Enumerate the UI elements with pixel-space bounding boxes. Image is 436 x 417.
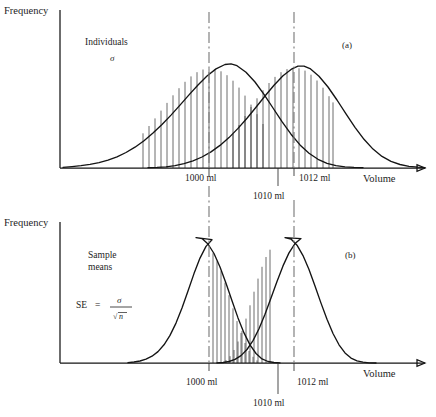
panel-b: Frequency Volume Sample means (b) 1000 m…: [4, 206, 425, 408]
panel-a-y-axis-label: Frequency: [4, 5, 49, 16]
panel-b-x-axis-label: Volume: [363, 368, 396, 379]
standard-error-formula: SE = σ √ n: [76, 295, 132, 321]
panel-a-x-axis-label: Volume: [363, 173, 396, 184]
formula-numerator-sigma: σ: [117, 295, 122, 305]
panel-b-curve-1000ml: [128, 238, 280, 363]
panel-a-curve-1012ml: [148, 66, 425, 168]
panel-b-tick-label-1000ml: 1000 ml: [186, 377, 218, 387]
formula-equals: =: [95, 300, 100, 310]
panel-b-offset-label-1010ml: 1010 ml: [253, 398, 285, 408]
panel-a-tag: (a): [342, 40, 352, 50]
panel-b-hatch-right-curve: [226, 250, 270, 363]
panel-a-tick-label-1012ml: 1012 ml: [299, 173, 331, 183]
formula-denominator-n: n: [119, 312, 123, 321]
panel-b-tick-label-1012ml: 1012 ml: [297, 377, 329, 387]
panel-b-annotation-title-line1: Sample: [88, 250, 117, 260]
panel-a-tick-label-1000ml: 1000 ml: [185, 173, 217, 183]
panel-b-y-axis-label: Frequency: [4, 217, 49, 228]
panel-a-annotation-title: Individuals: [85, 37, 128, 47]
panel-a-offset-label-1010ml: 1010 ml: [253, 191, 285, 201]
panel-b-annotation-title-line2: means: [88, 262, 113, 272]
panel-b-tag: (b): [345, 250, 356, 260]
formula-lhs: SE: [76, 300, 87, 310]
panel-a-axes: [60, 10, 425, 171]
panel-b-axes: [60, 222, 425, 366]
panel-a: Frequency Volume Individuals σ (a) 1000 …: [4, 5, 425, 206]
formula-denominator-radical: √: [113, 312, 118, 321]
statistical-figure: Frequency Volume Individuals σ (a) 1000 …: [0, 0, 436, 417]
panel-a-curve-1000ml: [63, 64, 363, 168]
panel-a-annotation-symbol: σ: [110, 53, 115, 63]
